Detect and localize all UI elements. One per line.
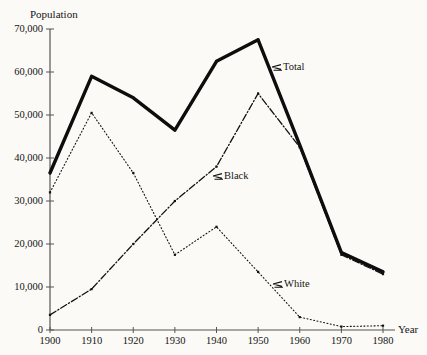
x-tick-label: 1930 bbox=[154, 336, 196, 347]
x-tick-label: 1960 bbox=[279, 336, 321, 347]
x-tick-label: 1910 bbox=[71, 336, 113, 347]
x-axis-title: Year bbox=[398, 324, 418, 335]
series-line-white bbox=[50, 113, 383, 327]
x-tick-label: 1940 bbox=[196, 336, 238, 347]
y-tick-label: 50,000 bbox=[0, 110, 43, 121]
series-line-black bbox=[50, 94, 383, 315]
series-points-black bbox=[49, 92, 384, 316]
series-label-black: Black bbox=[224, 171, 249, 182]
series-points-white bbox=[49, 112, 384, 328]
x-tick-label: 1980 bbox=[362, 336, 404, 347]
series-label-total: Total bbox=[283, 62, 304, 73]
y-tick-label: 60,000 bbox=[0, 67, 43, 78]
x-tick-label: 1900 bbox=[29, 336, 71, 347]
y-axis-title: Population bbox=[30, 9, 78, 20]
y-tick-label: 30,000 bbox=[0, 196, 43, 207]
y-tick-label: 10,000 bbox=[0, 282, 43, 293]
series-line-total bbox=[50, 40, 383, 272]
series-points-total bbox=[49, 39, 384, 273]
y-tick-label: 70,000 bbox=[0, 24, 43, 35]
x-tick-label: 1970 bbox=[320, 336, 362, 347]
y-tick-label: 0 bbox=[0, 325, 43, 336]
y-tick-label: 40,000 bbox=[0, 153, 43, 164]
series-label-white: White bbox=[284, 279, 310, 290]
chart-canvas bbox=[0, 0, 427, 355]
y-tick-label: 20,000 bbox=[0, 239, 43, 250]
x-tick-label: 1950 bbox=[237, 336, 279, 347]
x-tick-label: 1920 bbox=[112, 336, 154, 347]
population-line-chart: Population Year Total Black White 010,00… bbox=[0, 0, 427, 355]
